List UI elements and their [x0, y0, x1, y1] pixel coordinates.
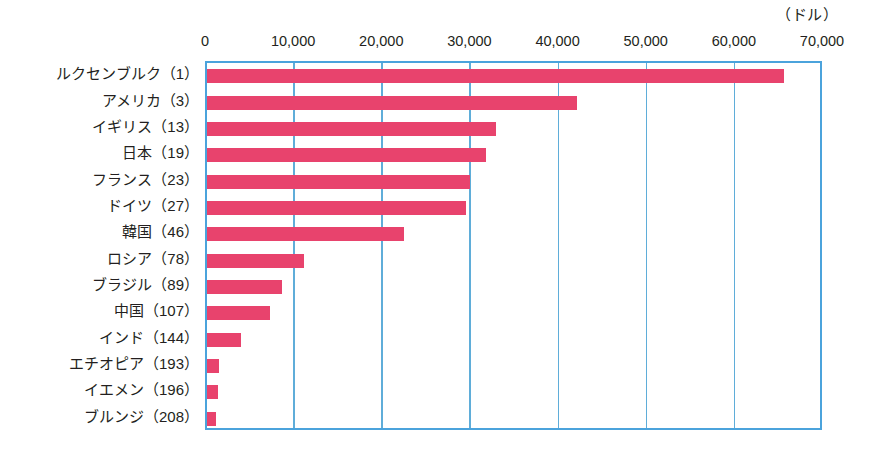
category-label: アメリカ（3） — [0, 92, 199, 109]
bar-chart-figure: （ドル） 010,00020,00030,00040,00050,00060,0… — [0, 0, 874, 469]
category-label: ブラジル（89） — [0, 276, 199, 293]
bar — [207, 96, 577, 110]
bar-row — [207, 406, 820, 432]
x-tick-label: 0 — [201, 33, 209, 49]
x-axis-tick-labels: 010,00020,00030,00040,00050,00060,00070,… — [0, 33, 874, 53]
category-axis-labels: ルクセンブルク（1）アメリカ（3）イギリス（13）日本（19）フランス（23）ド… — [0, 61, 199, 430]
bar — [207, 227, 404, 241]
bar — [207, 280, 282, 294]
bar-row — [207, 63, 820, 89]
bar — [207, 254, 304, 268]
category-label: イエメン（196） — [0, 381, 199, 398]
unit-caption: （ドル） — [776, 3, 838, 24]
category-label: 日本（19） — [0, 144, 199, 161]
bar-row — [207, 168, 820, 194]
bar-row — [207, 195, 820, 221]
bar-row — [207, 379, 820, 405]
bar — [207, 385, 218, 399]
category-label: フランス（23） — [0, 171, 199, 188]
category-label: ドイツ（27） — [0, 197, 199, 214]
bar-row — [207, 89, 820, 115]
bar-row — [207, 142, 820, 168]
bar — [207, 201, 466, 215]
x-tick-label: 50,000 — [624, 33, 668, 49]
bar-row — [207, 221, 820, 247]
category-label: 韓国（46） — [0, 223, 199, 240]
x-tick-label: 30,000 — [447, 33, 491, 49]
bar-row — [207, 353, 820, 379]
x-tick-label: 10,000 — [271, 33, 315, 49]
bar-row — [207, 248, 820, 274]
category-label: インド（144） — [0, 329, 199, 346]
bar — [207, 359, 219, 373]
category-label: ブルンジ（208） — [0, 408, 199, 425]
x-tick-label: 70,000 — [800, 33, 844, 49]
bar — [207, 175, 470, 189]
x-tick-label: 40,000 — [535, 33, 579, 49]
category-label: ロシア（78） — [0, 250, 199, 267]
bar-row — [207, 327, 820, 353]
category-label: イギリス（13） — [0, 118, 199, 135]
category-label: エチオピア（193） — [0, 355, 199, 372]
bar — [207, 122, 496, 136]
bar — [207, 69, 784, 83]
bar — [207, 333, 241, 347]
category-label: 中国（107） — [0, 302, 199, 319]
bar — [207, 412, 216, 426]
bar-row — [207, 116, 820, 142]
x-tick-label: 20,000 — [359, 33, 403, 49]
bar — [207, 148, 486, 162]
bar-row — [207, 300, 820, 326]
category-label: ルクセンブルク（1） — [0, 65, 199, 82]
plot-area — [205, 61, 822, 430]
bar-row — [207, 274, 820, 300]
bars-layer — [207, 63, 820, 428]
x-tick-label: 60,000 — [712, 33, 756, 49]
bar — [207, 306, 270, 320]
